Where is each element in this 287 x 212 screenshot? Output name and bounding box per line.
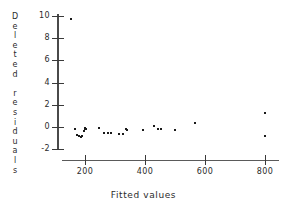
y-axis-title-letter: e (9, 41, 21, 51)
y-axis-tick-label-wrap: 6 (26, 56, 50, 64)
y-axis-tick-label: 6 (28, 56, 50, 64)
x-axis-tick (145, 155, 146, 165)
x-axis-tick-label: 600 (190, 168, 220, 176)
data-point (160, 128, 162, 130)
y-axis-tick (52, 38, 64, 39)
data-point (194, 122, 196, 124)
data-point (264, 135, 266, 137)
data-point (110, 132, 112, 134)
scatter-plot: Deleted residuals 1086420-2 200400600800… (0, 0, 287, 212)
y-axis-title-letter: t (9, 50, 21, 60)
y-axis-title-letter: e (9, 22, 21, 32)
y-axis-tick-label: 10 (28, 12, 50, 20)
y-axis-title-letter: d (9, 127, 21, 137)
y-axis-title-letter: l (9, 156, 21, 166)
y-axis-tick-label: 4 (28, 79, 50, 87)
data-point (74, 128, 76, 130)
y-axis-title-letter: i (9, 118, 21, 128)
x-axis-tick (205, 155, 206, 165)
y-axis-tick-label-wrap: 10 (26, 12, 50, 20)
y-axis-title-letter: l (9, 31, 21, 41)
data-point (153, 125, 155, 127)
x-axis-tick-label: 200 (70, 168, 100, 176)
y-axis-title-letter: e (9, 98, 21, 108)
x-axis-tick (265, 155, 266, 165)
y-axis-tick-label: 0 (28, 123, 50, 131)
data-point (122, 133, 124, 135)
data-point (98, 127, 100, 129)
x-axis-title: Fitted values (0, 190, 287, 200)
y-axis-title: Deleted residuals (9, 12, 21, 175)
data-point (142, 129, 144, 131)
y-axis-tick (52, 60, 64, 61)
y-axis-title-letter: u (9, 137, 21, 147)
y-axis-tick-label: 8 (28, 34, 50, 42)
y-axis-tick-label-wrap: -2 (26, 145, 50, 153)
y-axis-title-gap (9, 79, 21, 89)
data-point (103, 132, 105, 134)
x-axis-tick-label: 400 (130, 168, 160, 176)
y-axis-title-letter: r (9, 89, 21, 99)
y-axis-title-letter: s (9, 108, 21, 118)
data-point (174, 129, 176, 131)
data-point (107, 132, 109, 134)
y-axis-tick (52, 16, 64, 17)
x-axis-tick-label: 800 (250, 168, 280, 176)
y-axis-tick (52, 127, 64, 128)
y-axis-title-letter: d (9, 70, 21, 80)
y-axis-tick-label-wrap: 4 (26, 79, 50, 87)
data-point (126, 129, 128, 131)
data-point (81, 135, 83, 137)
y-axis-tick-label: 2 (28, 101, 50, 109)
y-axis-title-letter: a (9, 146, 21, 156)
x-axis-line (62, 160, 279, 161)
data-point (70, 18, 72, 20)
x-axis-tick (85, 155, 86, 165)
y-axis-title-letter: D (9, 12, 21, 22)
y-axis-tick (52, 83, 64, 84)
data-point (85, 128, 87, 130)
y-axis-tick (52, 149, 64, 150)
data-point (118, 133, 120, 135)
y-axis-title-letter: e (9, 60, 21, 70)
y-axis-tick-label: -2 (28, 145, 50, 153)
y-axis-title-letter: s (9, 166, 21, 176)
y-axis-tick (52, 105, 64, 106)
y-axis-tick-label-wrap: 8 (26, 34, 50, 42)
data-point (264, 112, 266, 114)
y-axis-tick-label-wrap: 2 (26, 101, 50, 109)
y-axis-tick-label-wrap: 0 (26, 123, 50, 131)
